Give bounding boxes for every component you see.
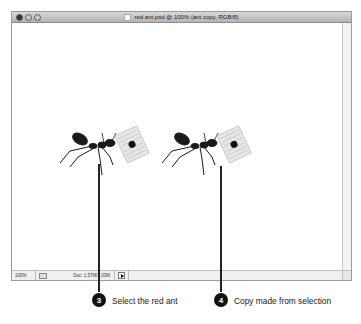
callout-text: Copy made from selection (234, 295, 331, 306)
status-menu-arrow-icon[interactable] (118, 272, 125, 279)
vertical-scrollbar[interactable] (342, 23, 351, 271)
callout-text: Select the red ant (112, 295, 178, 306)
doc-size-info: Doc: 1.57M/1.03M (50, 271, 115, 280)
document-window: red ant.psd @ 100% (ant copy, RGB/8) (11, 11, 352, 281)
document-icon (124, 14, 131, 21)
step-badge: 3 (92, 293, 106, 307)
card-icon (115, 126, 149, 163)
callout-4: 4 Copy made from selection (214, 293, 344, 307)
callout-3-leader-line (98, 164, 100, 292)
navigator-icon[interactable] (39, 273, 47, 279)
window-title: red ant.psd @ 100% (ant copy, RGB/8) (134, 14, 238, 20)
canvas[interactable] (12, 23, 343, 271)
original-ant[interactable] (58, 119, 163, 179)
resize-grip[interactable] (342, 271, 351, 280)
ant-copy[interactable] (160, 119, 265, 179)
callout-3: 3 Select the red ant (92, 293, 186, 307)
card-icon (217, 126, 251, 163)
zoom-level-field[interactable]: 100% (12, 271, 36, 280)
title-bar[interactable]: red ant.psd @ 100% (ant copy, RGB/8) (12, 12, 351, 23)
step-badge: 4 (214, 293, 228, 307)
status-bar: 100% Doc: 1.57M/1.03M (12, 270, 351, 280)
horizontal-scrollbar[interactable] (128, 271, 351, 280)
callout-4-leader-line (220, 166, 222, 292)
